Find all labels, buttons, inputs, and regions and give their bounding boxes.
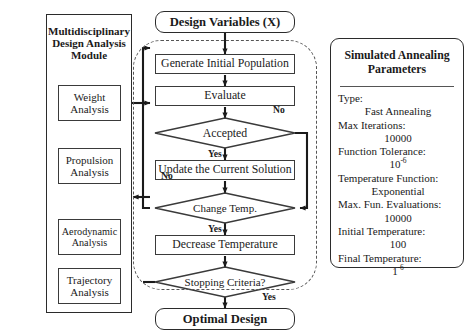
param-value-function-tolerance: 10-6 <box>338 158 458 171</box>
param-value-max-iterations: 10000 <box>338 132 458 145</box>
param-key-type: Type: <box>338 92 458 105</box>
module-title-line2: Design Analysis <box>52 37 126 49</box>
sa-params-title-line2: Parameters <box>334 62 460 76</box>
module-title-line1: Multidisciplinary <box>48 25 130 37</box>
param-value-final-temperature: 1-6 <box>338 265 458 278</box>
edge-label-stopping-yes: Yes <box>262 291 276 302</box>
weight-analysis-line2: Analysis <box>70 103 109 115</box>
propulsion-analysis-line2: Analysis <box>70 166 109 178</box>
design-variables-node[interactable]: Design Variables (X) <box>155 11 295 33</box>
accepted-label: Accepted <box>155 118 295 148</box>
sa-params-divider <box>340 86 454 87</box>
trajectory-analysis-line2: Analysis <box>70 286 109 298</box>
module-item-aerodynamic-analysis[interactable]: Aerodynamic Analysis <box>58 219 121 255</box>
optimal-design-node[interactable]: Optimal Design <box>155 308 295 330</box>
module-title: Multidisciplinary Design Analysis Module <box>48 20 130 66</box>
change-temp-label: Change Temp. <box>155 193 295 223</box>
param-key-initial-temperature: Initial Temperature: <box>338 225 458 238</box>
evaluate-node[interactable]: Evaluate <box>155 86 295 106</box>
decrease-temperature-node[interactable]: Decrease Temperature <box>155 235 295 255</box>
aerodynamic-analysis-line2: Analysis <box>72 237 108 248</box>
trajectory-analysis-line1: Trajectory <box>67 274 112 286</box>
param-key-max-fun-evaluations: Max. Fun. Evaluations: <box>338 198 458 211</box>
module-title-line3: Module <box>71 49 107 61</box>
param-key-temperature-function: Temperature Function: <box>338 172 458 185</box>
param-value-initial-temperature: 100 <box>338 238 458 251</box>
param-value-max-fun-evaluations: 10000 <box>338 212 458 225</box>
param-key-function-tolerance: Function Tolerance: <box>338 145 458 158</box>
edge-label-accepted-yes: Yes <box>208 148 222 159</box>
sa-params-title-line1: Simulated Annealing <box>334 48 460 62</box>
param-value-temperature-function: Exponential <box>338 185 458 198</box>
function-tolerance-exponent: -6 <box>400 157 406 166</box>
edge-label-change-temp-yes: Yes <box>208 223 222 234</box>
propulsion-analysis-line1: Propulsion <box>66 154 114 166</box>
param-value-type: Fast Annealing <box>338 105 458 118</box>
weight-analysis-line1: Weight <box>74 91 106 103</box>
param-key-max-iterations: Max Iterations: <box>338 119 458 132</box>
update-current-solution-node[interactable]: Update the Current Solution <box>155 160 295 180</box>
module-item-propulsion-analysis[interactable]: Propulsion Analysis <box>58 148 121 184</box>
aerodynamic-analysis-line1: Aerodynamic <box>62 226 117 237</box>
diagram-canvas: Multidisciplinary Design Analysis Module… <box>0 0 473 335</box>
module-item-trajectory-analysis[interactable]: Trajectory Analysis <box>58 268 121 304</box>
function-tolerance-base: 10 <box>389 158 400 170</box>
edge-label-change-temp-no: No <box>161 170 173 181</box>
generate-initial-population-node[interactable]: Generate Initial Population <box>155 54 295 74</box>
module-item-weight-analysis[interactable]: Weight Analysis <box>58 85 121 121</box>
sa-parameters-list: Type: Fast Annealing Max Iterations: 100… <box>338 92 458 278</box>
edge-label-accepted-no: No <box>273 104 285 115</box>
sa-parameters-title: Simulated Annealing Parameters <box>334 48 460 76</box>
final-temperature-exponent: -6 <box>398 263 404 272</box>
